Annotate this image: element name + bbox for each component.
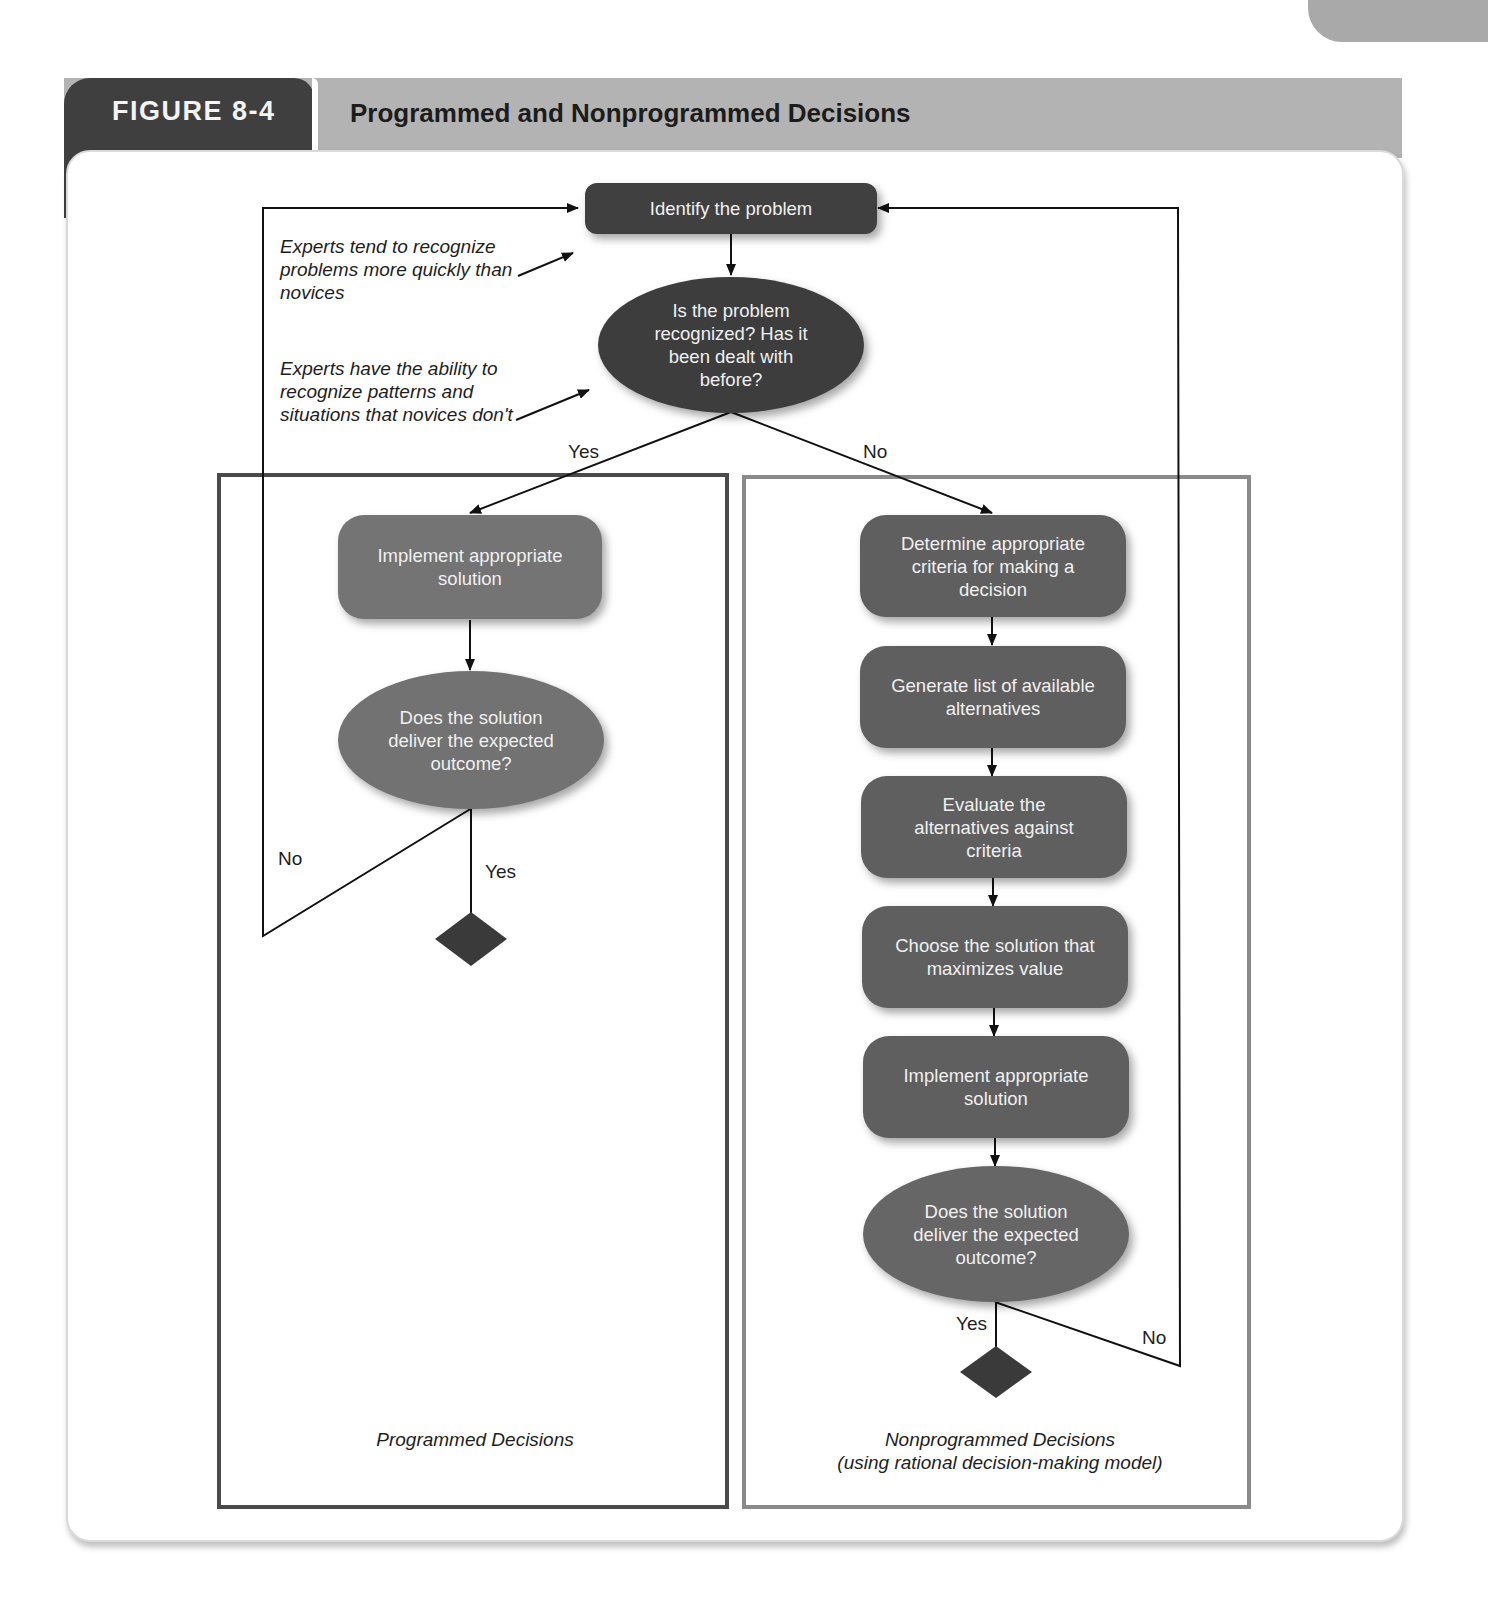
no-branch: [731, 412, 992, 513]
programmed-outcome-decision: Does the solution deliver the expected o…: [338, 671, 604, 809]
programmed-implement-node: Implement appropriate solution: [338, 515, 602, 619]
programmed-caption: Programmed Decisions: [300, 1428, 650, 1451]
step-choose-solution: Choose the solution that maximizes value: [862, 906, 1128, 1008]
note-experts-patterns: Experts have the ability to recognize pa…: [280, 357, 540, 426]
programmed-end-diamond: [435, 912, 507, 966]
nonprogrammed-end-diamond: [960, 1346, 1032, 1398]
nonprogrammed-caption: Nonprogrammed Decisions (using rational …: [790, 1428, 1210, 1474]
step-generate-alternatives: Generate list of available alternatives: [860, 646, 1126, 748]
note-experts-quick: Experts tend to recognize problems more …: [280, 235, 540, 304]
step-determine-criteria: Determine appropriate criteria for makin…: [860, 515, 1126, 617]
programmed-yes-label: Yes: [485, 861, 516, 883]
yes-branch: [470, 412, 731, 513]
problem-recognized-decision: Is the problem recognized? Has it been d…: [598, 277, 864, 413]
programmed-no-label: No: [278, 848, 302, 870]
nonprogrammed-no-label: No: [1142, 1327, 1166, 1349]
yes-branch-label: Yes: [568, 441, 599, 463]
no-branch-label: No: [863, 441, 887, 463]
identify-problem-node: Identify the problem: [585, 183, 877, 234]
step-implement-solution: Implement appropriate solution: [863, 1036, 1129, 1138]
nonprogrammed-caption-line1: Nonprogrammed Decisions: [790, 1428, 1210, 1451]
step-evaluate-alternatives: Evaluate the alternatives against criter…: [861, 776, 1127, 878]
nonprogrammed-yes-label: Yes: [956, 1313, 987, 1335]
nonprogrammed-outcome-decision: Does the solution deliver the expected o…: [863, 1166, 1129, 1302]
programmed-region: [219, 475, 727, 1507]
nonprogrammed-caption-line2: (using rational decision-making model): [790, 1451, 1210, 1474]
